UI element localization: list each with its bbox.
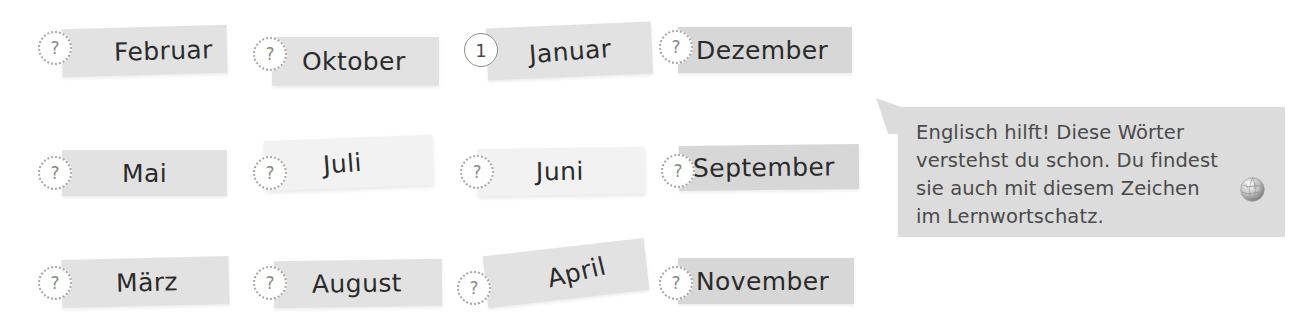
- month-card[interactable]: Oktober: [272, 37, 439, 86]
- month-card-label: Februar: [114, 35, 214, 67]
- month-card[interactable]: Mai: [62, 150, 227, 196]
- month-card-label: Mai: [122, 159, 167, 188]
- month-card[interactable]: März: [61, 256, 229, 308]
- question-mark-badge[interactable]: ?: [253, 37, 287, 71]
- question-mark-badge[interactable]: ?: [659, 266, 693, 300]
- month-card[interactable]: September: [679, 144, 859, 191]
- month-card-label: November: [696, 267, 829, 296]
- question-mark-badge[interactable]: ?: [460, 155, 494, 189]
- question-mark-badge[interactable]: ?: [659, 30, 693, 64]
- month-card-label: Juli: [322, 147, 363, 179]
- month-card-label: Januar: [528, 33, 612, 68]
- hint-callout-text: Englisch hilft! Diese Wörter verstehst d…: [916, 119, 1269, 231]
- question-mark-badge[interactable]: ?: [253, 266, 287, 300]
- question-mark-badge[interactable]: ?: [661, 154, 695, 188]
- question-mark-badge[interactable]: ?: [38, 31, 72, 65]
- month-card[interactable]: Dezember: [678, 27, 852, 73]
- month-card-label: Juni: [536, 157, 584, 187]
- month-card[interactable]: Januar: [486, 22, 653, 81]
- hint-callout: Englisch hilft! Diese Wörter verstehst d…: [898, 107, 1285, 237]
- globe-icon: [1239, 176, 1266, 203]
- question-mark-badge[interactable]: ?: [253, 156, 287, 190]
- question-mark-badge[interactable]: ?: [38, 156, 72, 190]
- month-card[interactable]: November: [678, 258, 854, 304]
- month-card[interactable]: April: [483, 238, 650, 308]
- month-card-label: August: [312, 268, 402, 298]
- worksheet-page: FebruarOktoberJanuarDezemberMaiJuliJuniS…: [0, 0, 1310, 331]
- month-card[interactable]: Juli: [264, 135, 434, 191]
- month-card-label: Oktober: [302, 47, 406, 76]
- month-card[interactable]: August: [274, 259, 443, 308]
- month-card[interactable]: Juni: [478, 147, 646, 196]
- question-mark-badge[interactable]: ?: [38, 266, 72, 300]
- month-card-label: September: [693, 152, 835, 182]
- question-mark-badge[interactable]: ?: [457, 271, 491, 305]
- answer-number-badge[interactable]: 1: [464, 33, 498, 67]
- month-card-label: Dezember: [696, 36, 828, 65]
- month-card-label: März: [116, 267, 179, 298]
- month-card[interactable]: Februar: [61, 25, 227, 78]
